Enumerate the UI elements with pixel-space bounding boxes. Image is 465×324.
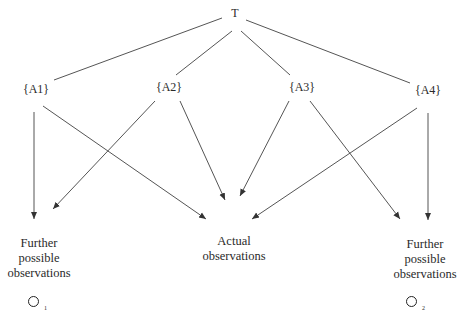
outcome-actual: Actual observations xyxy=(202,234,265,264)
arrow-a2-o1 xyxy=(53,101,155,209)
root-node-t: T xyxy=(231,6,238,21)
outcome-actual-line-2: observations xyxy=(202,249,265,264)
o1-circle-icon xyxy=(28,296,39,307)
outcome-actual-line-1: Actual xyxy=(202,234,265,249)
hypothesis-node-a3: {A3} xyxy=(289,80,315,95)
outcome-further-right: Further possible observations xyxy=(393,237,456,282)
outcome-right-line-3: observations xyxy=(393,267,456,282)
hypothesis-node-a2: {A2} xyxy=(156,80,182,95)
arrow-a2-actual xyxy=(180,101,225,200)
outcome-left-line-3: observations xyxy=(7,266,70,281)
arrow-a1-actual xyxy=(43,106,206,219)
outcome-left-line-2: possible xyxy=(7,251,70,266)
hypothesis-node-a4: {A4} xyxy=(415,83,441,98)
hypothesis-node-a1: {A1} xyxy=(23,82,49,97)
o2-subscript: 2 xyxy=(422,305,425,311)
o1-subscript: 1 xyxy=(44,305,47,311)
outcome-right-line-1: Further xyxy=(393,237,456,252)
outcome-right-line-2: possible xyxy=(393,252,456,267)
outcome-left-line-1: Further xyxy=(7,236,70,251)
arrow-a3-actual xyxy=(240,101,289,196)
edge-t-a1 xyxy=(54,18,222,80)
edge-t-a2 xyxy=(176,31,232,75)
edge-t-a3 xyxy=(241,31,290,75)
arrow-a3-o2 xyxy=(310,101,400,219)
edge-t-a4 xyxy=(246,20,410,83)
outcome-further-left: Further possible observations xyxy=(7,236,70,281)
o2-circle-icon xyxy=(406,296,417,307)
